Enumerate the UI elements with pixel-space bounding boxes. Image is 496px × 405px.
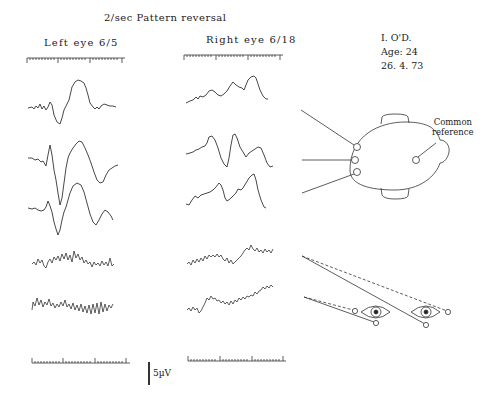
trace-left-3	[28, 183, 113, 235]
common-reference-label: Common reference	[432, 117, 474, 137]
time-ruler-left-top	[27, 58, 125, 63]
trace-right-1	[186, 76, 268, 103]
reference-leader	[418, 143, 436, 157]
electrode-eye-far-bottom	[423, 322, 428, 327]
time-ruler-left-bottom	[32, 358, 130, 363]
trace-right-4	[187, 245, 273, 265]
electrode-lower	[354, 169, 361, 176]
trace-left-4	[32, 251, 114, 268]
patient-name: I. O'D.	[381, 32, 412, 43]
electrode-eye-near-top	[352, 308, 357, 313]
recording-date: 26. 4. 73	[381, 60, 423, 71]
right-eye-heading: Right eye 6/18	[206, 34, 297, 45]
trace-right-2	[186, 134, 273, 167]
electrode-eye-far-top	[445, 309, 450, 314]
scale-bar-label: 5µV	[153, 368, 171, 378]
right-eye-icon	[411, 306, 440, 318]
lead-upper	[301, 110, 354, 145]
electrode-upper	[354, 144, 361, 151]
head-diagram	[301, 110, 449, 199]
electrode-reference	[413, 157, 420, 164]
lead-lower	[302, 174, 354, 193]
eye-diagram	[302, 256, 451, 328]
trace-right-5	[187, 285, 273, 313]
common-reference-line2: reference	[432, 127, 474, 137]
electrode-eye-near-bottom	[373, 320, 378, 325]
time-ruler-right-top	[184, 55, 283, 60]
common-reference-line1: Common	[432, 117, 474, 127]
trace-right-3	[186, 174, 266, 208]
electrode-middle	[352, 157, 359, 164]
trace-left-1	[28, 80, 116, 124]
left-eye-icon	[361, 306, 390, 318]
figure-title: 2/sec Pattern reversal	[104, 12, 227, 23]
trace-left-5	[32, 298, 113, 314]
trace-left-2	[28, 141, 118, 205]
time-ruler-right-bottom	[188, 356, 286, 361]
patient-age: Age: 24	[381, 46, 418, 57]
left-eye-heading: Left eye 6/5	[44, 37, 119, 48]
